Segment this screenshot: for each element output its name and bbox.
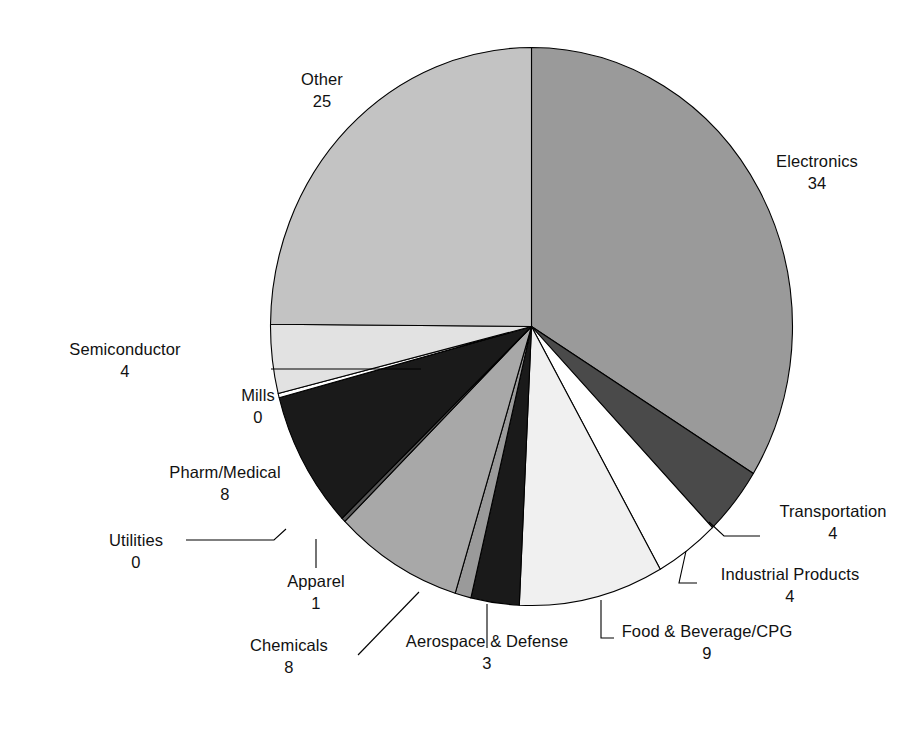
slice-label-industrial-products: Industrial Products 4 — [700, 563, 880, 607]
leader-utilities — [186, 529, 286, 540]
slice-label-aerospace-defense-value: 3 — [381, 652, 593, 674]
leader-transportation — [709, 522, 760, 536]
slice-label-pharm-medical-value: 8 — [146, 483, 304, 505]
slice-label-transportation-value: 4 — [757, 522, 909, 544]
slice-label-electronics-value: 34 — [752, 172, 882, 194]
slice-label-aerospace-defense: Aerospace & Defense 3 — [381, 630, 593, 674]
slice-label-mills: Mills 0 — [222, 384, 294, 428]
slice-label-transportation: Transportation 4 — [757, 500, 909, 544]
slice-label-food-beverage-name: Food & Beverage/CPG — [622, 622, 793, 640]
slice-label-semiconductor-value: 4 — [29, 360, 221, 382]
slice-label-electronics-name: Electronics — [776, 152, 858, 170]
slice-label-aerospace-defense-name: Aerospace & Defense — [406, 632, 568, 650]
slice-label-chemicals-value: 8 — [230, 656, 348, 678]
slice-label-utilities-name: Utilities — [109, 531, 163, 549]
slice-label-semiconductor-name: Semiconductor — [69, 340, 180, 358]
pie-slices — [271, 48, 793, 606]
slice-label-transportation-name: Transportation — [779, 502, 886, 520]
pie-chart: Other 25 Electronics 34 Transportation 4… — [0, 0, 924, 734]
slice-label-semiconductor: Semiconductor 4 — [29, 338, 221, 382]
slice-label-other-name: Other — [301, 70, 343, 88]
slice-label-chemicals-name: Chemicals — [250, 636, 328, 654]
slice-label-utilities: Utilities 0 — [88, 529, 184, 573]
slice-label-apparel-name: Apparel — [287, 572, 345, 590]
slice-label-apparel-value: 1 — [268, 592, 364, 614]
slice-label-chemicals: Chemicals 8 — [230, 634, 348, 678]
leader-industrial — [679, 551, 697, 583]
slice-label-mills-value: 0 — [222, 406, 294, 428]
slice-label-electronics: Electronics 34 — [752, 150, 882, 194]
slice-label-mills-name: Mills — [241, 386, 275, 404]
slice-label-food-beverage: Food & Beverage/CPG 9 — [612, 620, 802, 664]
slice-label-pharm-medical-name: Pharm/Medical — [169, 463, 280, 481]
slice-label-utilities-value: 0 — [88, 551, 184, 573]
slice-label-pharm-medical: Pharm/Medical 8 — [146, 461, 304, 505]
slice-label-other: Other 25 — [272, 68, 372, 112]
slice-label-industrial-products-value: 4 — [700, 585, 880, 607]
slice-label-apparel: Apparel 1 — [268, 570, 364, 614]
slice-label-food-beverage-value: 9 — [612, 642, 802, 664]
slice-label-other-value: 25 — [272, 90, 372, 112]
slice-label-industrial-products-name: Industrial Products — [721, 565, 860, 583]
